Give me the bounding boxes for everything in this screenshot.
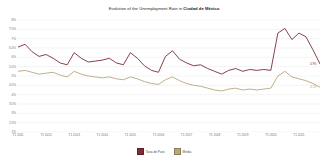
x-axis-tick-label: T1 2019 [237, 133, 248, 137]
y-axis: 8%7.5%7%6.5%6%5.5%5%4.5%4%3.5%3%2.5%2% [0, 20, 17, 132]
chart-legend: Tasa de ParoMedia [0, 148, 328, 155]
x-axis-tick-label: T1 2012 [40, 133, 51, 137]
x-axis: T1 2011T1 2012T1 2013T1 2014T1 2015T1 20… [18, 133, 320, 143]
x-axis-tick-label: T1 2017 [181, 133, 192, 137]
y-axis-tick-label: 5.5% [9, 65, 16, 69]
y-axis-tick-label: 4.5% [9, 83, 16, 87]
legend-label: Tasa de Paro [146, 150, 165, 154]
series-line-1 [18, 70, 320, 91]
plot-svg [18, 20, 320, 132]
chart-container: Evolution of the Unemployment Rate in Ci… [0, 0, 328, 165]
y-axis-tick-label: 3.5% [9, 102, 16, 106]
x-axis-tick-label: T1 2016 [153, 133, 164, 137]
x-axis-tick-label: T1 2018 [209, 133, 220, 137]
chart-title-highlight: Ciudad de México [183, 6, 219, 11]
legend-swatch-icon [174, 148, 181, 155]
y-axis-tick-label: 4% [12, 93, 16, 97]
legend-item-0[interactable]: Tasa de Paro [137, 148, 165, 155]
series-end-label-0: 4.9% [310, 62, 317, 66]
chart-title: Evolution of the Unemployment Rate in Ci… [0, 6, 328, 11]
x-axis-tick-label: T1 2013 [69, 133, 80, 137]
y-axis-tick-label: 7.5% [9, 27, 16, 31]
y-axis-tick-label: 2.5% [9, 121, 16, 125]
legend-swatch-icon [137, 148, 144, 155]
x-axis-tick-label: T1 2014 [97, 133, 108, 137]
y-axis-tick-label: 6.5% [9, 46, 16, 50]
y-axis-tick-label: 3% [12, 111, 16, 115]
series-line-0 [18, 28, 320, 74]
y-axis-tick-label: 7% [12, 37, 16, 41]
legend-item-1[interactable]: Media [174, 148, 192, 155]
chart-title-plain: Evolution of the Unemployment Rate in [109, 6, 184, 11]
legend-label: Media [183, 150, 192, 154]
series-lines [18, 28, 320, 91]
series-end-label-1: 4.1% [310, 85, 317, 89]
y-axis-tick-label: 6% [12, 55, 16, 59]
x-axis-tick-label: T1 2021 [293, 133, 304, 137]
x-axis-tick-label: T1 2011 [12, 133, 23, 137]
x-axis-tick-label: T1 2020 [265, 133, 276, 137]
y-axis-tick-label: 8% [12, 18, 16, 22]
plot-area: 4.9%4.1% [18, 20, 320, 132]
y-axis-tick-label: 5% [12, 74, 16, 78]
x-axis-tick-label: T1 2015 [125, 133, 136, 137]
